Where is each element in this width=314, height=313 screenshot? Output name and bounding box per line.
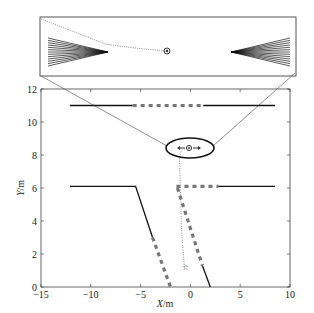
zoom-connector-left: [41, 76, 167, 146]
x-axis-label: X/m: [156, 298, 174, 309]
y-tick-label: 6: [32, 183, 37, 194]
x-tick-label: 10: [285, 289, 295, 300]
y-tick-label: 4: [32, 216, 37, 227]
vehicle-trajectory: [179, 148, 187, 267]
y-tick-label: 2: [32, 249, 37, 260]
zoom-connector-right: [213, 73, 295, 146]
start-star-marker: ☆: [182, 263, 189, 272]
plot-area: [41, 89, 290, 287]
y-tick-label: 10: [27, 117, 37, 128]
plot-series: [70, 106, 275, 288]
y-tick-label: 0: [32, 282, 37, 293]
x-tick-label: 5: [238, 289, 243, 300]
figure: −15−10−50510024681012 X/m Y/m ☆: [0, 0, 314, 313]
lower-right-slant-dashed: [177, 188, 202, 266]
x-tick-label: 0: [188, 289, 193, 300]
x-tick-label: −10: [83, 289, 99, 300]
lower-right-slant-solid: [202, 266, 210, 287]
x-tick-label: −5: [135, 289, 146, 300]
y-tick-label: 12: [27, 84, 37, 95]
y-axis-label: Y/m: [15, 180, 26, 196]
y-tick-label: 8: [32, 150, 37, 161]
target-vehicle-icon: [177, 145, 201, 150]
lower-left-boundary-solid: [70, 186, 153, 237]
tick-labels: −15−10−50510024681012: [27, 84, 295, 301]
axis-ticks: [41, 89, 290, 287]
lower-left-boundary-dashed: [153, 238, 171, 288]
